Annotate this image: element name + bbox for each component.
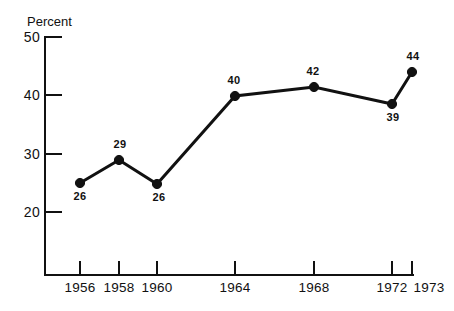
data-point-1968[interactable] (309, 82, 318, 91)
data-label-1964: 40 (227, 74, 240, 86)
y-tick-labels: 50 40 30 20 (24, 29, 40, 220)
x-tick-label-1972: 1972 (377, 280, 408, 295)
data-label-1960: 26 (152, 191, 165, 203)
data-point-1958[interactable] (114, 155, 123, 164)
data-label-1956: 26 (73, 190, 86, 202)
data-label-1972: 39 (386, 111, 399, 123)
data-label-1958: 29 (113, 138, 126, 150)
chart-canvas: Percent 50 40 30 20 195 (0, 0, 454, 311)
y-tick-label-50: 50 (24, 29, 40, 45)
y-tick-label-40: 40 (24, 87, 40, 103)
x-tick-labels: 1956 1958 1960 1964 1968 1972 1973 (65, 280, 445, 295)
data-point-labels: 26 29 26 40 42 39 44 (73, 50, 420, 203)
data-point-1956[interactable] (75, 178, 84, 187)
data-point-1964[interactable] (230, 91, 239, 100)
line-chart: Percent 50 40 30 20 195 (0, 0, 454, 311)
data-point-1973[interactable] (407, 67, 416, 76)
x-tick-label-1960: 1960 (142, 280, 173, 295)
x-tick-label-1973: 1973 (414, 280, 445, 295)
y-tick-label-20: 20 (24, 204, 40, 220)
x-tick-label-1964: 1964 (220, 280, 251, 295)
data-point-1960[interactable] (152, 179, 161, 188)
data-point-1972[interactable] (387, 99, 396, 108)
y-axis-title: Percent (27, 14, 72, 29)
y-tick-marks (45, 37, 62, 212)
x-tick-label-1958: 1958 (104, 280, 135, 295)
data-series-line (80, 72, 412, 184)
data-label-1973: 44 (406, 50, 420, 62)
data-label-1968: 42 (306, 65, 319, 77)
x-tick-label-1968: 1968 (299, 280, 330, 295)
y-tick-label-30: 30 (24, 146, 40, 162)
x-tick-label-1956: 1956 (65, 280, 96, 295)
axis-lines (45, 37, 413, 275)
x-tick-marks (80, 261, 412, 275)
data-markers (75, 67, 416, 188)
